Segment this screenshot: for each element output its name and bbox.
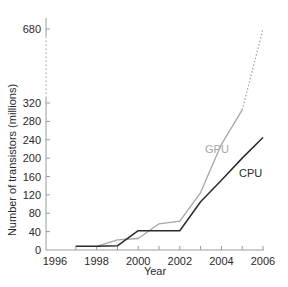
y-tick-label: 0 (35, 244, 41, 256)
x-tick-label: 1998 (84, 255, 108, 267)
x-tick-label: 1996 (43, 255, 67, 267)
y-tick-label: 200 (23, 152, 41, 164)
x-axis: 199619982000200220042006 (43, 246, 275, 267)
y-axis: 04080120160200240280320680 (23, 18, 50, 256)
y-tick-label: 240 (23, 134, 41, 146)
series-lines (76, 29, 263, 246)
y-tick-label: 160 (23, 171, 41, 183)
y-tick-label: 680 (23, 23, 41, 35)
y-tick-label: 40 (29, 226, 41, 238)
transistor-chart: 04080120160200240280320680 1996199820002… (0, 0, 288, 287)
y-axis-title: Number of transistors (millions) (6, 84, 18, 236)
gpu-label: GPU (205, 143, 229, 155)
cpu-label: CPU (239, 167, 262, 179)
x-tick-label: 2002 (168, 255, 192, 267)
cpu-line (76, 137, 263, 246)
y-tick-label: 120 (23, 189, 41, 201)
x-tick-label: 2004 (209, 255, 233, 267)
x-tick-label: 2006 (251, 255, 275, 267)
y-tick-label: 280 (23, 115, 41, 127)
y-tick-label: 320 (23, 97, 41, 109)
gpu-line-projection (242, 29, 263, 110)
y-tick-label: 80 (29, 207, 41, 219)
x-axis-title: Year (144, 265, 167, 277)
gpu-line (97, 110, 243, 246)
